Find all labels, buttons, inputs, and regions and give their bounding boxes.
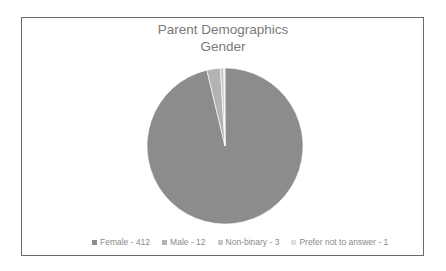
legend-item-nonbinary: Non-binary - 3 (218, 237, 280, 247)
legend-item-male: Male - 12 (162, 237, 205, 247)
legend: Female - 412 Male - 12 Non-binary - 3 Pr… (92, 237, 388, 247)
legend-item-prefer-not: Prefer not to answer - 1 (291, 237, 388, 247)
legend-swatch-female (92, 240, 97, 245)
pie-chart (147, 67, 303, 225)
chart-title: Parent Demographics Gender (0, 21, 446, 55)
legend-label-male: Male - 12 (170, 237, 205, 247)
legend-swatch-nonbinary (218, 240, 223, 245)
legend-swatch-prefer-not (291, 240, 296, 245)
legend-swatch-male (162, 240, 167, 245)
legend-label-prefer-not: Prefer not to answer - 1 (299, 237, 388, 247)
legend-item-female: Female - 412 (92, 237, 150, 247)
chart-title-main: Parent Demographics (0, 21, 446, 38)
chart-subtitle: Gender (0, 38, 446, 55)
legend-label-female: Female - 412 (100, 237, 150, 247)
legend-label-nonbinary: Non-binary - 3 (226, 237, 280, 247)
